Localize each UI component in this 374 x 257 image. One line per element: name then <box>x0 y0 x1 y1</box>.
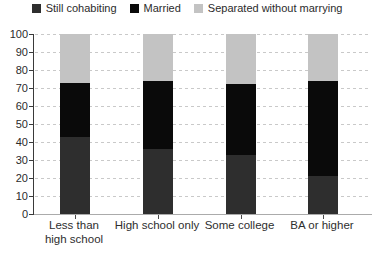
y-tick-mark <box>29 106 34 107</box>
y-axis-labels: 0102030405060708090100 <box>0 34 28 214</box>
y-tick-mark <box>29 178 34 179</box>
bar-segment-0-1 <box>60 83 90 137</box>
legend-swatch-icon <box>130 4 139 13</box>
y-tick-mark <box>29 196 34 197</box>
y-tick-mark <box>29 88 34 89</box>
y-tick-label: 10 <box>16 190 28 202</box>
chart-legend: Still cohabitingMarriedSeparated without… <box>0 2 374 14</box>
y-tick-label: 100 <box>10 28 28 40</box>
plot-area <box>33 34 372 215</box>
legend-item-1: Married <box>130 2 181 14</box>
y-tick-label: 80 <box>16 64 28 76</box>
bar-segment-1-1 <box>143 81 173 149</box>
y-tick-mark <box>29 70 34 71</box>
x-category-label-3: BA or higher <box>290 218 353 232</box>
bar-segment-0-0 <box>60 137 90 214</box>
y-tick-mark <box>29 124 34 125</box>
x-category-label-line: Less than <box>45 218 103 232</box>
bar-segment-2-2 <box>226 34 256 84</box>
y-tick-label: 70 <box>16 82 28 94</box>
y-tick-label: 0 <box>22 208 28 220</box>
y-tick-label: 30 <box>16 154 28 166</box>
bar-segment-0-2 <box>60 34 90 83</box>
legend-label: Separated without marrying <box>208 2 343 14</box>
bar-segment-1-0 <box>143 149 173 214</box>
x-category-label-line: high school <box>45 232 103 246</box>
y-tick-label: 40 <box>16 136 28 148</box>
y-tick-mark <box>29 214 34 215</box>
x-category-label-line: Some college <box>205 218 275 232</box>
legend-item-0: Still cohabiting <box>32 2 117 14</box>
x-category-label-line: High school only <box>115 218 199 232</box>
y-tick-label: 90 <box>16 46 28 58</box>
x-category-label-0: Less thanhigh school <box>45 218 103 246</box>
bar-segment-2-1 <box>226 84 256 154</box>
y-tick-label: 50 <box>16 118 28 130</box>
legend-label: Married <box>144 2 181 14</box>
legend-swatch-icon <box>32 4 41 13</box>
bar-segment-3-0 <box>308 176 338 214</box>
bar-segment-2-0 <box>226 155 256 214</box>
x-category-label-2: Some college <box>205 218 275 232</box>
y-tick-mark <box>29 52 34 53</box>
y-tick-mark <box>29 34 34 35</box>
x-category-label-line: BA or higher <box>290 218 353 232</box>
y-tick-mark <box>29 142 34 143</box>
y-tick-label: 20 <box>16 172 28 184</box>
legend-swatch-icon <box>194 4 203 13</box>
bar-segment-1-2 <box>143 34 173 81</box>
x-category-label-1: High school only <box>115 218 199 232</box>
bar-segment-3-1 <box>308 81 338 176</box>
legend-item-2: Separated without marrying <box>194 2 343 14</box>
bar-segment-3-2 <box>308 34 338 81</box>
y-tick-label: 60 <box>16 100 28 112</box>
legend-label: Still cohabiting <box>46 2 117 14</box>
y-tick-mark <box>29 160 34 161</box>
stacked-bar-chart: Still cohabitingMarriedSeparated without… <box>0 0 374 257</box>
